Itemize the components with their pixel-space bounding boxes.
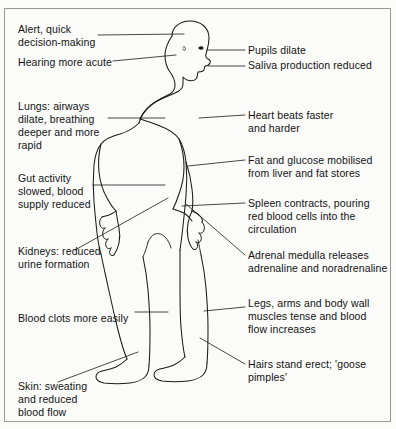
label-blood-clots-more-easily: Blood clots more easily: [18, 312, 128, 325]
label-gut-activity-slowed: Gut activity slowed, blood supply reduce…: [18, 172, 91, 211]
leader-legs-arms-body-wall: [204, 307, 245, 311]
leader-fat-and-glucose-mobilised: [188, 160, 245, 166]
leader-heart-beats-faster: [199, 115, 245, 118]
label-heart-beats-faster: Heart beats faster and harder: [248, 109, 333, 135]
label-saliva-production-reduced: Saliva production reduced: [248, 59, 372, 72]
left-arm-outline: [99, 144, 120, 256]
label-legs-arms-body-wall: Legs, arms and body wall muscles tense a…: [248, 297, 369, 336]
label-adrenal-medulla-releases: Adrenal medulla releases adrenaline and …: [248, 249, 387, 275]
leader-adrenal-medulla-releases: [186, 204, 245, 255]
label-hairs-stand-erect: Hairs stand erect; 'goose pimples': [248, 358, 366, 384]
torso-front-outline: [140, 119, 187, 250]
head-outline: [139, 21, 210, 123]
label-alert-decision-making: Alert, quick decision-making: [18, 23, 95, 49]
label-fat-and-glucose-mobilised: Fat and glucose mobilised from liver and…: [248, 154, 373, 180]
torso-back-outline: [93, 123, 139, 254]
leader-skin-sweating: [58, 352, 138, 382]
stress-response-diagram: Alert, quick decision-making Hearing mor…: [0, 0, 396, 429]
eye-detail: [198, 46, 203, 49]
leader-alert-decision-making: [98, 34, 184, 35]
ear-detail: [183, 47, 185, 51]
label-spleen-contracts: Spleen contracts, pouring red blood cell…: [248, 197, 370, 236]
crotch-detail: [148, 234, 171, 248]
label-kidneys-reduced-urine: Kidneys: reduced urine formation: [18, 245, 101, 271]
right-leg-outline: [143, 240, 208, 382]
label-skin-sweating: Skin: sweating and reduced blood flow: [18, 380, 87, 419]
right-arm-outline: [173, 139, 204, 250]
leader-hearing-more-acute: [113, 55, 176, 61]
leader-spleen-contracts: [182, 203, 245, 206]
label-pupils-dilate: Pupils dilate: [248, 44, 306, 57]
label-lungs-airways-dilate: Lungs: airways dilate, breathing deeper …: [18, 100, 99, 152]
label-hearing-more-acute: Hearing more acute: [18, 56, 112, 69]
